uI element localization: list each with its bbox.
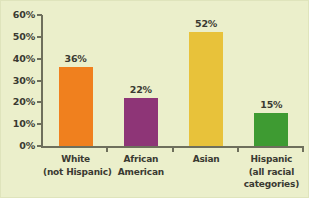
bar-slot: 36% [43, 15, 108, 146]
x-axis-category-label-line: (all racial [239, 166, 304, 179]
bar-slot: 15% [239, 15, 304, 146]
y-axis-tick-label: 20% [1, 97, 35, 107]
y-axis-tick-label: 50% [1, 32, 35, 42]
x-axis-category-label-line: Asian [174, 153, 239, 166]
x-axis-category-label-line: categories) [239, 178, 304, 191]
x-axis-category-label: Hispanic(all racialcategories) [239, 153, 304, 191]
y-axis-tick-label-text: 10% [1, 119, 35, 129]
plot-area: 36%22%52%15% [43, 15, 304, 146]
bar[interactable]: 36% [59, 67, 93, 146]
y-axis-tick-mark [37, 58, 42, 60]
y-axis-tick-mark [37, 123, 42, 125]
x-axis-category-label-line: White [43, 153, 108, 166]
y-axis-tick-label: 0% [1, 141, 35, 151]
bar-value-label: 52% [195, 18, 217, 29]
x-axis-tick-mark [106, 146, 108, 152]
y-axis-tick-mark [37, 80, 42, 82]
y-axis-tick-label-text: 30% [1, 76, 35, 86]
x-axis-tick-mark [302, 146, 304, 152]
y-axis-tick-mark [37, 145, 42, 147]
bar-value-label: 15% [260, 99, 282, 110]
x-axis-category-label-line: American [108, 166, 173, 179]
x-axis-category-label: Asian [174, 153, 239, 166]
x-axis-category-label: White(not Hispanic) [43, 153, 108, 178]
bar-value-label: 36% [65, 53, 87, 64]
y-axis-tick-label-text: 50% [1, 32, 35, 42]
bar-slot: 52% [174, 15, 239, 146]
y-axis-tick-label: 40% [1, 54, 35, 64]
y-axis-tick-label-text: 40% [1, 54, 35, 64]
bar[interactable]: 22% [124, 98, 158, 146]
x-axis-category-label-line: (not Hispanic) [43, 166, 108, 179]
bar-chart: 0%10%20%30%40%50%60% 36%22%52%15% White(… [0, 0, 309, 198]
y-axis-tick-label-text: 20% [1, 97, 35, 107]
bar-slot: 22% [108, 15, 173, 146]
x-axis-category-label-line: Hispanic [239, 153, 304, 166]
bar-value-label: 22% [130, 84, 152, 95]
x-axis-category-label: AfricanAmerican [108, 153, 173, 178]
y-axis-tick-mark [37, 36, 42, 38]
x-axis-tick-mark [237, 146, 239, 152]
y-axis-tick-label-text: 60% [1, 10, 35, 20]
x-axis-tick-mark [172, 146, 174, 152]
y-axis-tick-label: 10% [1, 119, 35, 129]
y-axis-tick-label: 30% [1, 76, 35, 86]
y-axis-tick-mark [37, 101, 42, 103]
y-axis-tick-label: 60% [1, 10, 35, 20]
bar[interactable]: 52% [189, 32, 223, 146]
y-axis-tick-label-text: 0% [1, 141, 35, 151]
x-axis-category-label-line: African [108, 153, 173, 166]
bar[interactable]: 15% [254, 113, 288, 146]
y-axis-tick-mark [37, 14, 42, 16]
